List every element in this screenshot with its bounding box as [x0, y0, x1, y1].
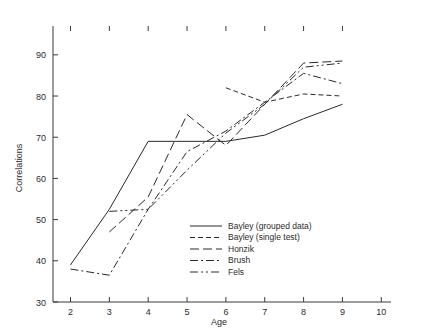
- y-tick-label-90: 90: [36, 50, 46, 60]
- legend-label-4: Fels: [228, 267, 244, 277]
- series-line-bayley-grouped-data: [70, 104, 342, 265]
- legend-label-0: Bayley (grouped data): [228, 221, 312, 231]
- x-tick-label-6: 6: [223, 307, 228, 317]
- y-axis-title: Correlations: [14, 143, 24, 192]
- x-tick-label-5: 5: [185, 307, 190, 317]
- series-line-fels: [109, 63, 342, 211]
- axes: [53, 26, 391, 302]
- legend-label-3: Brush: [228, 255, 250, 265]
- series-line-brush: [70, 73, 342, 275]
- y-tick-label-50: 50: [36, 215, 46, 225]
- y-tick-label-80: 80: [36, 92, 46, 102]
- legend-label-1: Bayley (single test): [228, 232, 300, 242]
- legend-label-2: Honzik: [228, 244, 255, 254]
- x-tick-label-9: 9: [340, 307, 345, 317]
- line-chart: 304050607080902345678910 Bayley (grouped…: [0, 0, 426, 335]
- x-tick-label-7: 7: [262, 307, 267, 317]
- chart-legend: Bayley (grouped data)Bayley (single test…: [190, 221, 312, 277]
- axis-spines: [53, 26, 391, 302]
- data-series: [70, 61, 342, 275]
- series-line-honzik: [109, 61, 342, 232]
- x-tick-label-2: 2: [68, 307, 73, 317]
- x-axis-title: Age: [211, 317, 227, 327]
- x-tick-label-4: 4: [146, 307, 151, 317]
- series-line-bayley-single-test: [226, 88, 343, 102]
- y-tick-label-30: 30: [36, 298, 46, 308]
- chart-figure: 304050607080902345678910 Bayley (grouped…: [0, 0, 426, 335]
- axis-tick-labels: 304050607080902345678910: [36, 50, 386, 317]
- y-tick-label-60: 60: [36, 174, 46, 184]
- x-tick-label-10: 10: [376, 307, 386, 317]
- x-tick-label-3: 3: [107, 307, 112, 317]
- y-tick-label-70: 70: [36, 133, 46, 143]
- y-tick-label-40: 40: [36, 256, 46, 266]
- x-tick-label-8: 8: [301, 307, 306, 317]
